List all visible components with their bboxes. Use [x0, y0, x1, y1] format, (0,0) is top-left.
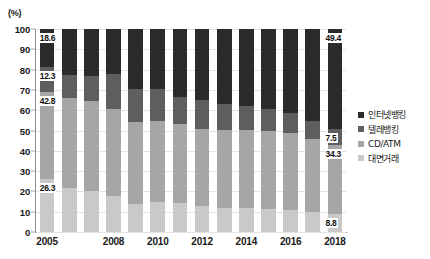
bar-segment[interactable]	[217, 29, 232, 104]
bar-segment[interactable]	[261, 131, 276, 209]
bar-segment[interactable]	[128, 89, 143, 122]
bar-segment[interactable]	[217, 208, 232, 232]
bar-segment[interactable]	[62, 98, 77, 188]
bar-group[interactable]	[128, 29, 143, 232]
bar-segment[interactable]	[150, 29, 165, 89]
bar-group[interactable]	[173, 29, 188, 232]
bar-segment[interactable]	[106, 74, 121, 110]
bar-segment[interactable]	[106, 196, 121, 232]
x-axis-tick-label: 2005	[36, 236, 57, 247]
bar-group[interactable]	[217, 29, 232, 232]
bar-segment[interactable]	[239, 208, 254, 232]
bar-group[interactable]	[239, 29, 254, 232]
x-axis-tick-label: 2010	[147, 236, 168, 247]
bar-value-label: 7.5	[325, 133, 338, 143]
bar-value-label: 34.3	[325, 149, 342, 159]
legend-label: 대면거래	[368, 152, 398, 165]
bar-segment[interactable]	[305, 212, 320, 232]
bar-value-label: 12.3	[39, 71, 56, 81]
bar-segment[interactable]	[62, 75, 77, 98]
y-axis-tick-label: 100	[15, 24, 30, 35]
bar-segment[interactable]	[217, 104, 232, 130]
bar-segment[interactable]	[239, 130, 254, 208]
x-axis-tick-label: 2018	[324, 236, 345, 247]
bar-segment[interactable]	[195, 206, 210, 232]
bar-segment[interactable]	[62, 29, 77, 75]
y-axis-tick-label: 10	[20, 206, 30, 217]
y-axis-tick-label: 60	[20, 105, 30, 116]
y-axis-tick-label: 30	[20, 166, 30, 177]
x-axis-labels: 2005200820102012201420162018	[36, 236, 346, 252]
bar-segment[interactable]	[305, 121, 320, 138]
bar-segment[interactable]	[328, 29, 343, 129]
bar-segment[interactable]	[305, 139, 320, 212]
y-axis-tick-label: 90	[20, 44, 30, 55]
bar-segment[interactable]	[128, 122, 143, 204]
bar-group[interactable]	[62, 29, 77, 232]
legend-item[interactable]: CD/ATM	[358, 138, 426, 149]
bar-segment[interactable]	[173, 203, 188, 232]
chart-container: (%) 0102030405060708090100 26.342.812.31…	[0, 0, 430, 259]
bar-segment[interactable]	[173, 29, 188, 97]
legend-item[interactable]: 대면거래	[358, 153, 426, 164]
bar-group[interactable]	[305, 29, 320, 232]
bar-group[interactable]	[40, 29, 55, 232]
bar-group[interactable]	[106, 29, 121, 232]
bar-segment[interactable]	[195, 129, 210, 206]
chart-legend: 인터넷뱅킹텔레뱅킹CD/ATM대면거래	[358, 109, 426, 167]
legend-label: 인터넷뱅킹	[368, 108, 406, 121]
bar-value-label: 26.3	[39, 183, 56, 193]
gridline	[36, 232, 346, 233]
legend-color-swatch-icon	[358, 155, 364, 161]
y-axis-tick-label: 50	[20, 125, 30, 136]
bar-segment[interactable]	[84, 29, 99, 76]
bar-group[interactable]	[283, 29, 298, 232]
bar-segment[interactable]	[261, 29, 276, 109]
bar-group[interactable]	[195, 29, 210, 232]
bar-segment[interactable]	[106, 109, 121, 195]
bar-segment[interactable]	[128, 29, 143, 89]
bar-group[interactable]	[84, 29, 99, 232]
bar-group[interactable]	[328, 29, 343, 232]
bar-segment[interactable]	[62, 188, 77, 232]
bar-segment[interactable]	[106, 29, 121, 74]
y-axis-tick-label: 40	[20, 145, 30, 156]
bar-segment[interactable]	[239, 106, 254, 130]
bar-segment[interactable]	[84, 101, 99, 191]
legend-item[interactable]: 텔레뱅킹	[358, 124, 426, 135]
x-axis-tick-label: 2016	[280, 236, 301, 247]
bar-value-label: 49.4	[325, 33, 342, 43]
bar-segment[interactable]	[261, 109, 276, 131]
bar-group[interactable]	[150, 29, 165, 232]
bar-segment[interactable]	[283, 133, 298, 210]
y-axis-unit-label: (%)	[8, 8, 21, 18]
bar-segment[interactable]	[128, 204, 143, 232]
bar-segment[interactable]	[173, 97, 188, 124]
bar-segment[interactable]	[195, 29, 210, 100]
bar-segment[interactable]	[261, 209, 276, 232]
bar-segment[interactable]	[84, 76, 99, 101]
bar-group[interactable]	[261, 29, 276, 232]
plot-area: 26.342.812.318.68.834.37.549.4	[36, 29, 346, 232]
legend-item[interactable]: 인터넷뱅킹	[358, 109, 426, 120]
x-axis-tick-label: 2008	[103, 236, 124, 247]
bar-segment[interactable]	[283, 29, 298, 113]
bar-segment[interactable]	[84, 191, 99, 232]
bar-segment[interactable]	[150, 202, 165, 232]
bar-segment[interactable]	[239, 29, 254, 106]
y-axis-tick-label: 80	[20, 64, 30, 75]
bar-segment[interactable]	[195, 100, 210, 129]
bar-segment[interactable]	[305, 29, 320, 121]
y-axis-tick-label: 20	[20, 186, 30, 197]
bar-segment[interactable]	[173, 124, 188, 203]
y-axis-tick-label: 70	[20, 84, 30, 95]
bar-segment[interactable]	[283, 210, 298, 232]
x-axis-tick-label: 2012	[191, 236, 212, 247]
bar-series-layer	[36, 29, 346, 232]
bar-value-label: 8.8	[325, 218, 338, 228]
bar-segment[interactable]	[150, 121, 165, 201]
legend-color-swatch-icon	[358, 141, 364, 147]
bar-segment[interactable]	[283, 113, 298, 132]
bar-segment[interactable]	[217, 130, 232, 208]
bar-segment[interactable]	[150, 89, 165, 121]
